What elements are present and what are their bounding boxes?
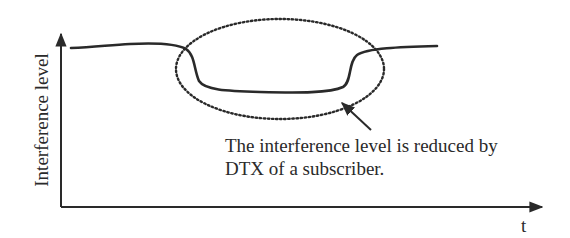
annotation-line-1: The interference level is reduced by <box>225 135 498 156</box>
interference-curve <box>71 44 437 93</box>
annotation-line-2: DTX of a subscriber. <box>225 158 384 179</box>
diagram-canvas: Interference level t The interference le… <box>0 0 570 238</box>
y-axis-label: Interference level <box>31 53 52 186</box>
x-axis-label: t <box>521 215 527 236</box>
annotation-arrow <box>342 103 371 130</box>
dtx-region-ellipse <box>176 19 384 119</box>
